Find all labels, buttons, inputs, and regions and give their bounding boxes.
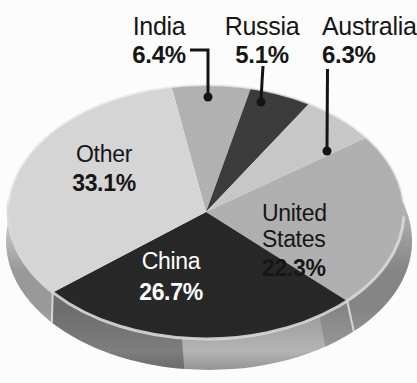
slice-value-united-states: 22.3% — [262, 256, 348, 281]
slice-name-china: China — [121, 248, 221, 274]
slice-name-russia: Russia — [221, 12, 303, 40]
slice-value-china: 26.7% — [121, 280, 221, 305]
slice-name-australia: Australia — [322, 12, 417, 40]
leader-dot-india — [204, 93, 213, 102]
slice-value-australia: 6.3% — [322, 42, 417, 67]
on-slice-label-other: Other 33.1% — [54, 141, 154, 196]
slice-value-india: 6.4% — [116, 42, 202, 67]
leader-dot-australia — [323, 147, 332, 156]
callout-label-russia: Russia 5.1% — [221, 12, 303, 67]
leader-dot-russia — [257, 98, 266, 107]
on-slice-label-china: China 26.7% — [121, 248, 221, 305]
pie-chart-figure: India 6.4% Russia 5.1% Australia 6.3% Ot… — [0, 0, 417, 383]
leader-line-russia — [261, 66, 263, 99]
leader-line-australia — [327, 69, 328, 148]
slice-name-india: India — [116, 12, 202, 40]
on-slice-label-united-states: United States 22.3% — [262, 200, 348, 281]
callout-label-australia: Australia 6.3% — [322, 12, 417, 67]
slice-name-united-states: United States — [262, 200, 348, 252]
slice-name-other: Other — [54, 141, 154, 167]
slice-value-russia: 5.1% — [221, 42, 303, 67]
callout-label-india: India 6.4% — [116, 12, 202, 67]
slice-value-other: 33.1% — [54, 171, 154, 196]
halftone-texture — [0, 60, 417, 383]
